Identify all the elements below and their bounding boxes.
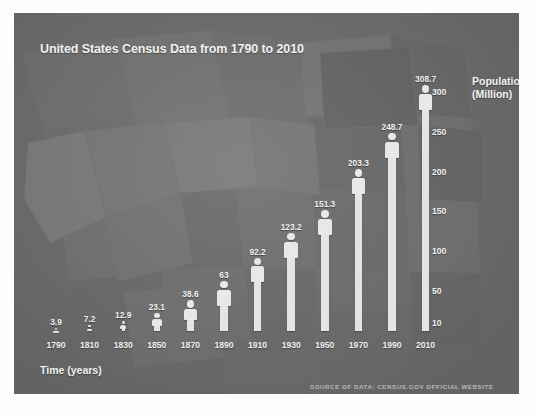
bar-figure-head <box>287 233 295 241</box>
bar-1810[interactable] <box>76 325 104 331</box>
bar-value-1930: 123.2 <box>271 222 311 232</box>
bar-figure-head <box>321 210 329 218</box>
bar-figure-torso <box>352 178 366 194</box>
bar-1830[interactable] <box>109 321 137 331</box>
bar-figure-column <box>422 110 429 331</box>
source-note: Source of Data: Census.gov official webs… <box>310 383 494 390</box>
bar-figure-head <box>220 281 228 289</box>
bar-value-2010: 308.7 <box>406 74 446 84</box>
bar-figure-torso <box>251 266 265 282</box>
bar-value-1950: 151.3 <box>305 199 345 209</box>
bar-2010[interactable] <box>412 85 440 331</box>
bar-figure-column <box>321 235 328 331</box>
panel-texture-overlay <box>14 13 519 394</box>
x-axis-title: Time (years) <box>40 364 102 376</box>
bar-1930[interactable] <box>277 233 305 331</box>
bar-value-1970: 203.3 <box>338 158 378 168</box>
bar-figure-torso <box>87 329 93 331</box>
y-axis-title: Population (Million) <box>472 75 519 100</box>
bar-1790[interactable] <box>42 328 70 331</box>
poster-frame: United States Census Data from 1790 to 2… <box>0 0 538 417</box>
bar-figure-torso <box>184 309 198 320</box>
bar-figure-torso <box>419 94 433 110</box>
bar-figure-column <box>154 326 160 331</box>
bar-1970[interactable] <box>344 169 372 331</box>
bar-figure-column <box>220 306 227 331</box>
bar-1850[interactable] <box>143 313 171 331</box>
bar-figure-torso <box>53 331 59 333</box>
bar-figure-head <box>187 300 195 308</box>
chart-panel: United States Census Data from 1790 to 2… <box>14 13 519 394</box>
bar-figure-column <box>187 320 194 331</box>
bar-figure-column <box>287 258 294 331</box>
bar-value-1850: 23.1 <box>137 302 177 312</box>
bar-value-1870: 38.6 <box>170 289 210 299</box>
y-axis-title-line1: Population <box>472 75 519 88</box>
bar-figure-torso <box>318 219 332 235</box>
bar-1990[interactable] <box>378 133 406 331</box>
bar-1950[interactable] <box>311 210 339 331</box>
chart-title: United States Census Data from 1790 to 2… <box>40 42 304 56</box>
bar-figure-column <box>122 329 125 331</box>
y-axis-title-line2: (Million) <box>472 88 519 101</box>
bar-figure-torso <box>152 319 162 326</box>
bar-1870[interactable] <box>176 300 204 331</box>
bar-figure-head <box>254 258 262 266</box>
bar-figure-head <box>122 321 125 324</box>
bar-figure-torso <box>385 142 399 158</box>
bar-figure-column <box>254 282 261 331</box>
us-map-background <box>14 13 519 394</box>
bar-value-1890: 63 <box>204 270 244 280</box>
bar-1910[interactable] <box>244 258 272 331</box>
bar-figure-torso <box>284 242 298 258</box>
bar-figure-column <box>388 158 395 331</box>
bar-figure-head <box>355 169 363 177</box>
x-axis-label-2010: 2010 <box>406 340 446 350</box>
bar-figure-head <box>388 133 396 141</box>
bar-figure-head <box>55 328 57 330</box>
bar-value-1990: 248.7 <box>372 122 412 132</box>
bar-figure-head <box>422 85 430 93</box>
bar-figure-torso <box>217 290 231 306</box>
bar-value-1910: 92.2 <box>238 247 278 257</box>
bar-1890[interactable] <box>210 281 238 331</box>
bar-figure-column <box>355 194 362 331</box>
bar-figure-head <box>88 325 90 327</box>
bar-figure-head <box>154 313 160 319</box>
